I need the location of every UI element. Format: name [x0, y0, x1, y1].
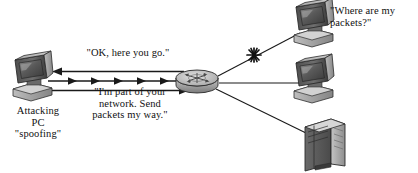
link-router-to-attacker-reply	[52, 68, 184, 76]
label-router-reply: "OK, here you go."	[74, 47, 182, 59]
link-attacker-packet-stream	[48, 77, 188, 84]
link-router-to-server-bottom	[216, 89, 306, 133]
node-victim-computer-top	[294, 0, 334, 47]
network-diagram: "OK, here you go." "I'm part of your net…	[0, 0, 418, 173]
node-computer-middle	[294, 54, 334, 103]
node-server-bottom	[305, 119, 345, 171]
label-victim-question: "Where are my packets?"	[330, 5, 418, 28]
node-attacking-pc	[13, 51, 53, 101]
starburst-icon	[247, 48, 261, 62]
label-spoof-claim: "I'm part of your network. Send packets …	[74, 86, 186, 121]
label-attacking-pc: Attacking PC "spoofing"	[4, 105, 72, 140]
